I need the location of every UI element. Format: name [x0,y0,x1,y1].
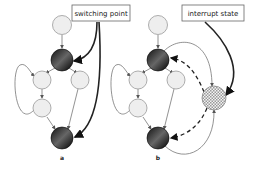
panel-b: interrupt state b [111,5,244,161]
edge [47,117,55,129]
state-node [129,71,147,89]
edge [46,68,55,73]
edge [142,68,151,73]
switching-node [51,127,73,149]
edge [143,117,151,129]
panel-a: switching point a [15,5,130,161]
state-node [53,16,72,35]
state-node [33,99,51,117]
loop-edge [111,64,130,114]
state-node [167,71,185,89]
interrupt-state-node [202,86,226,110]
panel-caption: b [156,154,161,161]
state-node [129,99,147,117]
callout-label: switching point [74,10,128,18]
dashed-return-edge [171,108,207,138]
panel-caption: a [60,154,64,161]
callout-arrow [74,22,97,61]
state-node [33,71,51,89]
loop-edge [15,64,34,114]
switching-node [147,127,169,149]
state-node [71,71,89,89]
callout-arrow [205,22,234,95]
switching-node [147,49,169,71]
state-node [149,16,168,35]
edge-to-interrupt [165,110,214,154]
switching-node [51,49,73,71]
diagram-canvas: switching point a interrupt state b [0,0,260,171]
edge [164,89,174,129]
callout-label: interrupt state [188,10,239,18]
edge [68,89,78,129]
